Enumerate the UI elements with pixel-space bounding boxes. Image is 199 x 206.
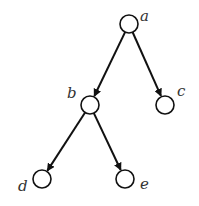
node-b: b bbox=[67, 84, 99, 114]
edge-a-b-arrow bbox=[94, 32, 125, 96]
node-circle-b bbox=[81, 96, 99, 114]
node-circle-c bbox=[156, 96, 174, 114]
node-label-a: a bbox=[140, 7, 149, 25]
nodes-group: abcde bbox=[18, 7, 186, 195]
node-d: d bbox=[18, 170, 51, 195]
edge-b-e-arrow bbox=[94, 113, 121, 170]
tree-diagram: abcde bbox=[0, 0, 199, 206]
edges-group bbox=[47, 32, 160, 171]
node-circle-e bbox=[116, 170, 134, 188]
node-label-d: d bbox=[18, 177, 28, 195]
node-circle-d bbox=[33, 170, 51, 188]
node-circle-a bbox=[120, 15, 138, 33]
edge-b-d-arrow bbox=[47, 113, 85, 171]
node-e: e bbox=[116, 170, 149, 193]
node-label-e: e bbox=[140, 175, 149, 193]
node-c: c bbox=[156, 82, 186, 114]
node-label-c: c bbox=[177, 82, 186, 100]
node-a: a bbox=[120, 7, 149, 33]
edge-a-c-arrow bbox=[133, 32, 161, 96]
node-label-b: b bbox=[67, 84, 77, 102]
